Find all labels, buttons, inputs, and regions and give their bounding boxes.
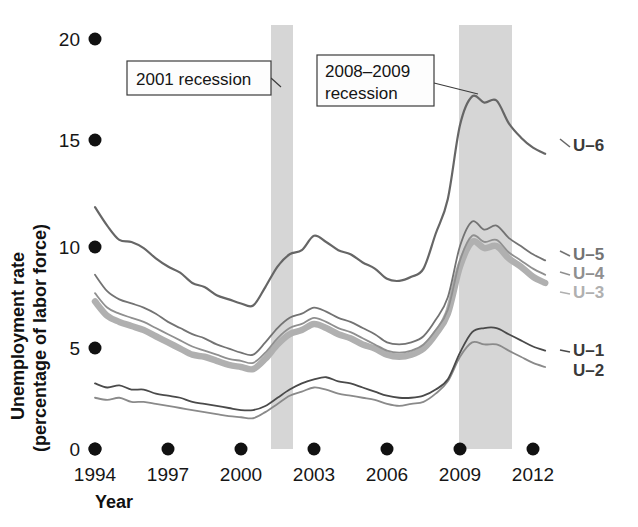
x-tick-dot-2006	[381, 443, 394, 456]
y-tick-label-15: 15	[59, 130, 80, 151]
y-tick-label-10: 10	[59, 237, 80, 258]
y-axis-title-line1: Unemployment rate	[8, 252, 28, 420]
recession-band-2008-2009	[459, 25, 512, 449]
series-label-leader-u-1	[560, 350, 570, 352]
y-axis-title-line2: (percentage of labor force)	[30, 224, 50, 452]
x-tick-dot-2012	[527, 443, 540, 456]
series-label-leader-u-5	[560, 251, 570, 256]
x-tick-dot-2003	[308, 443, 321, 456]
series-label-u-2: U–2	[573, 361, 604, 380]
x-tick-dot-2000	[235, 443, 248, 456]
y-tick-label-20: 20	[59, 29, 80, 50]
y-tick-dot-5	[89, 342, 102, 355]
y-axis-title: Unemployment rate (percentage of labor f…	[8, 224, 50, 452]
x-axis-title: Year	[95, 492, 133, 512]
annotation-2001-recession: 2001 recession	[127, 61, 281, 95]
anno-2008-label-line2: recession	[325, 84, 398, 103]
y-tick-dot-20	[89, 33, 102, 46]
recession-band-2001	[271, 25, 293, 449]
series-label-u-4: U–4	[573, 264, 605, 283]
annotation-2008-2009-recession: 2008–2009 recession	[317, 55, 478, 106]
x-tick-dot-1997	[162, 443, 175, 456]
anno-2008-label-line1: 2008–2009	[325, 62, 410, 81]
series-label-u-3: U–3	[573, 283, 604, 302]
y-tick-label-5: 5	[69, 338, 80, 359]
x-tick-label-2009: 2009	[439, 464, 481, 485]
x-tick-label-2000: 2000	[220, 464, 262, 485]
series-label-u-5: U–5	[573, 245, 604, 264]
series-labels: U–6U–5U–4U–3U–1U–2	[560, 136, 605, 380]
series-label-leader-u-3	[560, 292, 570, 294]
series-label-leader-u-4	[560, 272, 570, 275]
series-label-u-6: U–6	[573, 136, 604, 155]
x-tick-dot-2009	[454, 443, 467, 456]
y-tick-dot-10	[89, 241, 102, 254]
x-tick-label-1997: 1997	[147, 464, 189, 485]
x-tick-label-1994: 1994	[74, 464, 117, 485]
x-tick-label-2006: 2006	[366, 464, 408, 485]
x-tick-label-2012: 2012	[512, 464, 554, 485]
y-tick-label-0: 0	[69, 439, 80, 460]
chart-svg: 20 15 10 5 0 Unemployment rate (percenta…	[0, 0, 638, 527]
anno-2001-label: 2001 recession	[136, 70, 251, 89]
series-label-leader-u-6	[560, 139, 570, 147]
unemployment-rate-chart: 20 15 10 5 0 Unemployment rate (percenta…	[0, 0, 638, 527]
series-label-u-1: U–1	[573, 341, 604, 360]
y-tick-dot-15	[89, 134, 102, 147]
y-axis: 20 15 10 5 0	[59, 29, 102, 460]
x-tick-label-2003: 2003	[293, 464, 335, 485]
x-axis: 1994 1997 2000 2003 2006 2009 2012 Year	[74, 443, 554, 513]
x-tick-dot-1994	[89, 443, 102, 456]
